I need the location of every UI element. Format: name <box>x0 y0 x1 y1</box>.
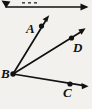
ray-BC-shaft <box>13 74 84 86</box>
ray-BC-arrowhead <box>81 83 88 89</box>
point-label-c: C <box>63 86 72 99</box>
partial-line-above <box>2 1 89 11</box>
point-label-d: D <box>73 41 82 54</box>
ray-BC <box>13 74 89 89</box>
partial-line-dashes <box>22 2 37 4</box>
geometry-figure: A B C D <box>0 0 92 109</box>
point-A-dot <box>39 23 44 28</box>
ray-BA-arrowhead <box>43 15 50 22</box>
point-label-b: B <box>1 67 10 80</box>
point-label-a: A <box>26 22 35 35</box>
point-B-dot <box>10 71 15 76</box>
partial-line-right-arrowhead <box>81 4 89 11</box>
